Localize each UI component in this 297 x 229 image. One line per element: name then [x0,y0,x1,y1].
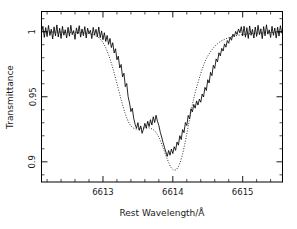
x-axis-major-ticks [103,12,243,183]
y-axis-tick-labels: 0.90.951 [28,29,38,169]
x-tick-label: 6613 [92,187,114,197]
x-tick-label: 6614 [162,187,184,197]
spectrum-figure: 661366146615 0.90.951 Rest Wavelength/Å … [0,0,297,229]
observed-spectrum-curve [42,25,282,157]
plot-canvas: 661366146615 0.90.951 Rest Wavelength/Å … [0,0,297,229]
y-axis-minor-ticks [42,19,283,175]
y-tick-label: 0.95 [28,87,38,106]
x-axis-title: Rest Wavelength/Å [119,207,205,218]
model-fit-curve [42,32,282,170]
plot-frame [42,12,283,183]
x-axis-tick-labels: 661366146615 [92,187,253,197]
y-axis-title: Transmittance [5,65,15,130]
y-axis-major-ticks [42,32,283,162]
y-tick-label: 1 [28,29,38,34]
x-tick-label: 6615 [232,187,254,197]
y-tick-label: 0.9 [28,155,38,169]
